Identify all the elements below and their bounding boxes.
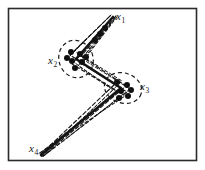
sample-dot-cluster-x2-5 (83, 54, 89, 60)
vertex-label-x1: x1 (116, 11, 125, 22)
sample-dot-cluster-x3-0 (114, 79, 120, 85)
figure-container: x1 x2 x3 x4 (0, 0, 205, 170)
sample-dot-along-top-segment-0 (92, 37, 98, 43)
sample-dot-cluster-x2-4 (72, 65, 78, 71)
sample-dot-cluster-x3-4 (116, 95, 122, 101)
vertex-label-subscript-x2: 2 (53, 60, 57, 69)
sample-dot-cluster-x2-3 (79, 59, 85, 65)
sample-dot-along-top-segment-2 (102, 25, 108, 31)
sample-dot-cluster-x2-0 (68, 49, 74, 55)
sample-dot-cluster-x2-6 (64, 55, 70, 61)
sample-dot-along-top-segment-1 (97, 31, 103, 37)
sample-dot-cluster-x2-1 (77, 51, 83, 57)
vertex-label-x2: x2 (48, 55, 57, 66)
sample-dot-cluster-x3-1 (124, 82, 130, 88)
vertex-label-subscript-x4: 4 (34, 148, 38, 157)
vertex-label-subscript-x1: 1 (121, 16, 125, 25)
vertex-label-x4: x4 (29, 143, 38, 154)
vertex-label-x3: x3 (140, 81, 149, 92)
sample-dot-cluster-x3-2 (118, 88, 124, 94)
vertex-label-subscript-x3: 3 (145, 86, 149, 95)
sample-dot-cluster-x2-2 (69, 58, 75, 64)
sample-dot-cluster-x3-3 (128, 87, 134, 93)
sample-dot-cluster-x3-5 (125, 93, 131, 99)
